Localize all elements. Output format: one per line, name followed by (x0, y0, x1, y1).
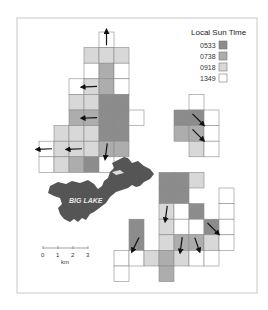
grid-cell-southeast (189, 250, 204, 266)
grid-cell-southeast (189, 204, 204, 220)
grid-cell-northwest (69, 126, 84, 142)
grid-cell-northwest (114, 126, 129, 142)
grid-cell-southeast (129, 219, 144, 235)
grid-cell-northwest (99, 126, 114, 142)
grid-cell-northwest (114, 110, 129, 126)
grid-cell-southeast (219, 235, 234, 251)
grid-cell-northwest (69, 157, 84, 173)
grid-cell-southeast (129, 250, 144, 266)
grid-cell-northwest (129, 110, 144, 126)
grid-cell-northeast (189, 141, 204, 157)
grid-cell-northeast (204, 126, 219, 142)
grid-cell-southeast (159, 235, 174, 251)
grid-cell-southeast (174, 250, 189, 266)
grid-cell-southeast (219, 188, 234, 204)
grid-cell-southeast (159, 219, 174, 235)
legend-label-0918: 0918 (200, 64, 216, 71)
legend-swatch-0533 (219, 41, 227, 49)
grid-cell-northwest (114, 94, 129, 110)
legend-swatch-0918 (219, 63, 227, 71)
sun-time-map: BIG LAKE Local Sun Time 0533073809181349… (0, 0, 268, 310)
grid-cell-northeast (189, 94, 204, 110)
grid-cell-northeast (204, 110, 219, 126)
legend-swatch-1349 (219, 74, 227, 82)
grid-cell-southeast (174, 188, 189, 204)
legend-swatch-0738 (219, 52, 227, 60)
grid-cell-northwest (54, 126, 69, 142)
grid-cell-northwest (114, 141, 129, 157)
direction-arrow-left (82, 86, 97, 87)
grid-cell-southeast (204, 235, 219, 251)
grid-cell-southeast (159, 266, 174, 282)
grid-cell-southeast (159, 172, 174, 188)
grid-cell-northwest (54, 157, 69, 173)
grid-cell-southeast (174, 204, 189, 220)
direction-arrow-left (37, 149, 52, 150)
legend-label-0533: 0533 (200, 42, 216, 49)
grid-cell-northwest (99, 63, 114, 79)
grid-cell-southeast (219, 204, 234, 220)
grid-cell-northwest (84, 94, 99, 110)
grid-cell-northwest (84, 48, 99, 64)
grid-cell-northwest (114, 63, 129, 79)
grid-cell-northwest (99, 79, 114, 95)
grid-cell-northwest (39, 157, 54, 173)
grid-cell-southeast (114, 250, 129, 266)
grid-cell-southeast (159, 188, 174, 204)
grid-cell-southeast (189, 172, 204, 188)
grid-cell-northwest (99, 48, 114, 64)
lake-label: BIG LAKE (69, 197, 103, 204)
grid-cell-southeast (174, 172, 189, 188)
direction-arrow-left (82, 118, 97, 119)
legend-label-0738: 0738 (200, 53, 216, 60)
legend-title: Local Sun Time (191, 28, 247, 37)
grid-cell-southeast (114, 266, 129, 282)
grid-cell-northeast (174, 110, 189, 126)
grid-cell-southeast (159, 250, 174, 266)
grid-cell-northwest (99, 110, 114, 126)
grid-cell-northwest (84, 141, 99, 157)
grid-cell-northeast (174, 126, 189, 142)
grid-cell-northwest (84, 126, 99, 142)
grid-cell-southeast (174, 219, 189, 235)
grid-cell-southeast (144, 250, 159, 266)
grid-cell-northwest (69, 94, 84, 110)
grid-cell-northwest (84, 63, 99, 79)
grid-cell-northwest (99, 94, 114, 110)
grid-cell-southeast (204, 250, 219, 266)
grid-cell-southeast (189, 219, 204, 235)
grid-cell-northwest (84, 157, 99, 173)
grid-cell-southeast (219, 219, 234, 235)
grid-cell-northwest (114, 48, 129, 64)
grid-cell-northeast (204, 141, 219, 157)
grid-cell-northwest (114, 79, 129, 95)
scale-unit: km (61, 259, 69, 265)
legend-label-1349: 1349 (200, 75, 216, 82)
direction-arrow-left (67, 149, 82, 150)
grid-cell-northwest (99, 157, 114, 173)
